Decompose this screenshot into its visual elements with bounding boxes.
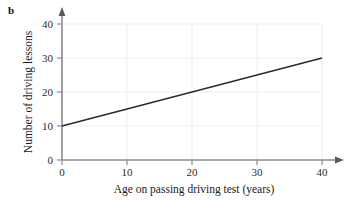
line-chart: 40 30 20 10 0 0 10 20 30 40 Age on passi… — [0, 0, 349, 200]
x-tick-label-10: 10 — [122, 166, 134, 178]
x-axis — [62, 157, 344, 164]
y-tick-label-0: 0 — [48, 154, 54, 166]
x-axis-title: Age on passing driving test (years) — [114, 183, 275, 196]
y-tick-label-20: 20 — [42, 86, 54, 98]
x-tick-label-40: 40 — [317, 166, 329, 178]
figure-container: b — [0, 0, 349, 200]
y-axis-title: Number of driving lessons — [22, 30, 35, 153]
x-tick-label-30: 30 — [252, 166, 264, 178]
y-tick-label-40: 40 — [42, 18, 54, 30]
y-axis-arrow — [59, 7, 66, 16]
y-tick-label-30: 30 — [42, 52, 54, 64]
x-axis-arrow — [335, 157, 344, 164]
x-tick-label-20: 20 — [187, 166, 199, 178]
y-tick-label-10: 10 — [42, 120, 54, 132]
x-tick-label-0: 0 — [59, 166, 65, 178]
y-axis — [59, 7, 66, 160]
